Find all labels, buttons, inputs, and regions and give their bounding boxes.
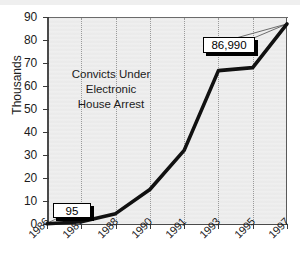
data-series-line (47, 24, 287, 224)
data-label-callout-end: 86,990 (203, 37, 255, 53)
series-layer (0, 0, 300, 270)
data-label-callout-start: 95 (53, 203, 91, 218)
chart-figure: 0102030405060708090 Thousands 1986198719… (0, 0, 300, 270)
